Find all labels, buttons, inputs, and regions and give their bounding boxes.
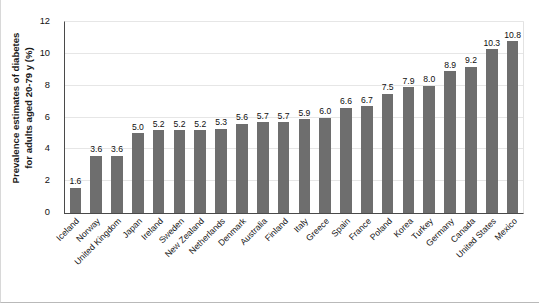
bar-value-label: 8.0: [423, 74, 435, 84]
bar-value-label: 7.5: [382, 82, 394, 92]
bar-slot: 8.0: [419, 22, 440, 213]
y-tick-label: 10: [20, 48, 50, 58]
y-tick-label: 0: [20, 207, 50, 217]
bar[interactable]: [111, 156, 123, 213]
bar-value-label: 6.7: [361, 95, 373, 105]
bar[interactable]: [423, 86, 435, 213]
bar-slot: 7.5: [377, 22, 398, 213]
bar-slot: 3.6: [107, 22, 128, 213]
bar-value-label: 8.9: [444, 60, 456, 70]
bar-slot: 5.6: [232, 22, 253, 213]
bar[interactable]: [215, 129, 227, 213]
bar[interactable]: [486, 49, 498, 213]
y-tick-label: 12: [20, 16, 50, 26]
bar-slot: 5.3: [211, 22, 232, 213]
bar-value-label: 3.6: [111, 144, 123, 154]
bar-slot: 1.6: [65, 22, 86, 213]
bar[interactable]: [90, 156, 102, 213]
y-tick-label: 6: [20, 112, 50, 122]
y-tick-label: 4: [20, 143, 50, 153]
bar-value-label: 7.9: [403, 76, 415, 86]
bar-value-label: 5.7: [257, 111, 269, 121]
bar-value-label: 6.6: [340, 96, 352, 106]
bar[interactable]: [507, 41, 519, 213]
bar-value-label: 5.6: [236, 112, 248, 122]
bar[interactable]: [132, 133, 144, 213]
bar[interactable]: [403, 87, 415, 213]
bar-value-label: 9.2: [465, 55, 477, 65]
bar-slot: 7.9: [398, 22, 419, 213]
bar-value-label: 5.2: [194, 119, 206, 129]
bar[interactable]: [444, 71, 456, 213]
bar[interactable]: [319, 118, 331, 214]
bar-slot: 5.2: [190, 22, 211, 213]
bar[interactable]: [174, 130, 186, 213]
bar[interactable]: [465, 67, 477, 213]
bar[interactable]: [236, 124, 248, 213]
bar[interactable]: [361, 106, 373, 213]
bar-value-label: 5.2: [153, 119, 165, 129]
bar-value-label: 5.9: [298, 108, 310, 118]
bar-slot: 5.0: [127, 22, 148, 213]
bar-value-label: 10.8: [504, 30, 521, 40]
bar-slot: 3.6: [86, 22, 107, 213]
bar-value-label: 5.0: [132, 122, 144, 132]
bar-value-label: 5.7: [278, 111, 290, 121]
bar[interactable]: [340, 108, 352, 213]
y-tick-label: 2: [20, 175, 50, 185]
bar-slot: 10.3: [481, 22, 502, 213]
bar-value-label: 1.6: [69, 176, 81, 186]
bar-value-label: 5.3: [215, 117, 227, 127]
bar-value-label: 3.6: [90, 144, 102, 154]
bar-value-label: 6.0: [319, 106, 331, 116]
bar-value-label: 10.3: [483, 38, 500, 48]
y-tick-label: 8: [20, 80, 50, 90]
bar-slot: 5.7: [252, 22, 273, 213]
bar[interactable]: [382, 94, 394, 213]
bar-slot: 10.8: [502, 22, 523, 213]
bar-slot: 6.0: [315, 22, 336, 213]
bar-slot: 8.9: [440, 22, 461, 213]
bar-slot: 6.7: [356, 22, 377, 213]
x-axis-tick-labels: IcelandNorwayUnited KingdomJapanIrelandS…: [64, 213, 522, 303]
bar[interactable]: [299, 119, 311, 213]
bar[interactable]: [194, 130, 206, 213]
bar-slot: 9.2: [461, 22, 482, 213]
y-axis-tick-labels: 024681012: [1, 21, 57, 212]
bar[interactable]: [278, 122, 290, 213]
bar-slot: 5.2: [169, 22, 190, 213]
bar-slot: 6.6: [336, 22, 357, 213]
plot-area: 1.63.63.65.05.25.25.25.35.65.75.75.96.06…: [64, 21, 524, 214]
chart-figure: Prevalence estimates of diabetes for adu…: [0, 0, 539, 303]
bar-series: 1.63.63.65.05.25.25.25.35.65.75.75.96.06…: [65, 22, 523, 213]
bar[interactable]: [70, 188, 82, 213]
bar-slot: 5.2: [148, 22, 169, 213]
bar[interactable]: [257, 122, 269, 213]
bar[interactable]: [153, 130, 165, 213]
bar-slot: 5.9: [294, 22, 315, 213]
bar-slot: 5.7: [273, 22, 294, 213]
bar-value-label: 5.2: [174, 119, 186, 129]
